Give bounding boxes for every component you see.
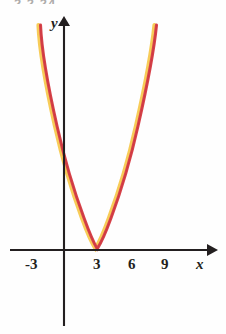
x-tick-label-6: 6: [128, 257, 136, 272]
y-axis-label: y: [51, 16, 58, 31]
x-tick-label-9: 9: [161, 257, 169, 272]
x-tick-label-3: 3: [93, 257, 101, 272]
parabola-figure: 2.2.24: [0, 0, 226, 334]
graph-canvas: [0, 0, 226, 334]
y-axis-arrowhead: [58, 16, 70, 26]
x-axis: [10, 244, 218, 256]
x-axis-label: x: [196, 257, 204, 272]
x-tick-label-minus3: -3: [25, 257, 38, 272]
x-axis-arrowhead: [207, 244, 218, 256]
